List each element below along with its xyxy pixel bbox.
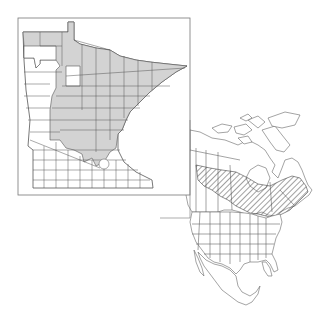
minnesota-panel [18,18,190,195]
greenland-outline [268,112,300,128]
distribution-map-figure [0,0,331,325]
